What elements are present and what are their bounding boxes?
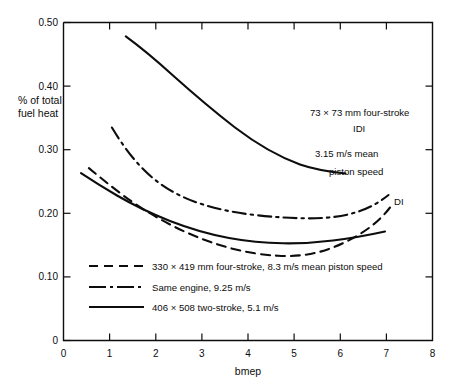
x-tick-label-0: 0 <box>61 348 67 359</box>
series-two-stroke <box>81 173 385 243</box>
legend-label-1: 330 × 419 mm four-stroke, 8.3 m/s mean p… <box>152 261 383 272</box>
y-axis-title-line1: % of total <box>18 94 62 106</box>
x-axis-title: bmep <box>235 365 261 377</box>
y-tick-label-050: 0.50 <box>39 17 59 28</box>
x-tick-label-5: 5 <box>291 348 297 359</box>
annotation-piston-speed-line1: 3.15 m/s mean <box>315 148 378 159</box>
x-tick-label-8: 8 <box>430 348 436 359</box>
x-tick-label-3: 3 <box>199 348 205 359</box>
chart-figure: 0.50 0.40 0.30 0.20 0.10 0 0 1 2 3 4 5 6… <box>0 0 451 383</box>
annotation-idi-engine: 73 × 73 mm four-stroke <box>310 107 409 118</box>
x-tick-label-6: 6 <box>338 348 344 359</box>
x-tick-label-2: 2 <box>153 348 159 359</box>
y-tick-label-010: 0.10 <box>39 271 59 282</box>
y-tick-label-030: 0.30 <box>39 144 59 155</box>
y-axis-title-line2: fuel heat <box>18 107 58 119</box>
y-tick-label-020: 0.20 <box>39 208 59 219</box>
y-axis-ticks <box>64 23 71 341</box>
annotation-di-label: DI <box>394 196 404 207</box>
x-tick-label-4: 4 <box>245 348 251 359</box>
x-axis-top-ticks <box>110 23 387 30</box>
series-idi <box>126 36 346 173</box>
y-tick-label-040: 0.40 <box>39 81 59 92</box>
x-axis-ticks <box>110 334 387 341</box>
y-axis-right-ticks <box>426 86 433 277</box>
annotation-piston-speed-line2: piston speed <box>329 166 383 177</box>
legend-label-2: Same engine, 9.25 m/s <box>152 282 251 293</box>
annotation-idi-label: IDI <box>353 123 365 134</box>
plot-frame <box>64 23 433 341</box>
y-tick-label-000: 0 <box>52 335 58 346</box>
x-tick-label-7: 7 <box>384 348 390 359</box>
legend: 330 × 419 mm four-stroke, 8.3 m/s mean p… <box>89 261 383 313</box>
x-tick-label-1: 1 <box>107 348 113 359</box>
legend-label-3: 406 × 508 two-stroke, 5.1 m/s <box>152 302 279 313</box>
chart-plot-area: 0.50 0.40 0.30 0.20 0.10 0 0 1 2 3 4 5 6… <box>0 0 451 383</box>
